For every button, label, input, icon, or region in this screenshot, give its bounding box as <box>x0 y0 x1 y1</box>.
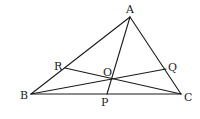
label-r: R <box>54 60 63 73</box>
segment-bq <box>31 69 166 94</box>
labels-group: A B C R Q O P <box>20 3 192 109</box>
label-q: Q <box>168 61 177 74</box>
label-o: O <box>103 66 112 79</box>
segment-cr <box>65 68 181 94</box>
segments-group <box>31 17 181 94</box>
label-p: P <box>101 96 109 109</box>
triangle-diagram: A B C R Q O P <box>0 0 200 119</box>
label-c: C <box>184 91 192 104</box>
diagram-canvas: A B C R Q O P <box>0 0 200 119</box>
segment-ab <box>31 17 130 94</box>
segment-ac <box>130 17 181 94</box>
segment-ap <box>107 17 130 94</box>
label-b: B <box>20 89 28 102</box>
label-a: A <box>125 3 135 16</box>
